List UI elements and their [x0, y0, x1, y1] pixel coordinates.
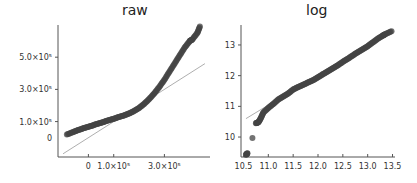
data-point: [249, 135, 255, 141]
y-tick-label: 10: [225, 133, 235, 142]
log-plot: 1011121310.511.011.512.012.513.013.5: [225, 25, 402, 171]
data-point: [244, 150, 250, 156]
x-tick-label: 10.5: [235, 162, 253, 171]
y-tick-label: 12: [225, 72, 235, 81]
data-point: [197, 24, 203, 30]
y-tick-label: 1.0×10⁵: [19, 118, 52, 127]
x-tick-label: 12.5: [334, 162, 352, 171]
x-tick-label: 12.0: [309, 162, 327, 171]
y-tick-label: 13: [225, 41, 235, 50]
x-tick-label: 3.0×10⁵: [148, 162, 181, 171]
data-point: [389, 28, 395, 34]
x-tick-label: 0: [86, 162, 91, 171]
x-tick-label: 13.0: [359, 162, 377, 171]
x-tick-label: 11.0: [259, 162, 277, 171]
y-tick-label: 3.0×10⁵: [19, 85, 52, 94]
x-tick-label: 13.5: [384, 162, 402, 171]
x-tick-label: 11.5: [284, 162, 302, 171]
raw-plot: 01.0×10⁵3.0×10⁵5.0×10⁵01.0×10⁵3.0×10⁵: [19, 24, 210, 171]
x-tick-label: 1.0×10⁵: [97, 162, 130, 171]
y-tick-label: 5.0×10⁵: [19, 53, 52, 62]
y-tick-label: 0: [47, 134, 52, 143]
y-tick-label: 11: [225, 102, 235, 111]
qq-plots: 01.0×10⁵3.0×10⁵5.0×10⁵01.0×10⁵3.0×10⁵101…: [0, 0, 417, 183]
